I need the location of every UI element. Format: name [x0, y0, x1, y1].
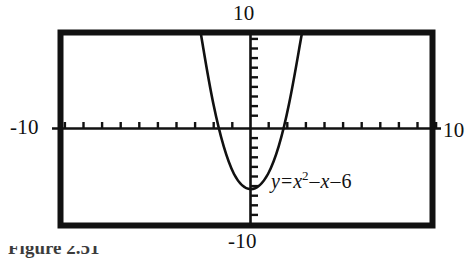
- equation-exponent: 2: [302, 168, 309, 183]
- coordinate-plot: [0, 0, 473, 259]
- equation-lhs: y: [271, 170, 280, 192]
- equation-minus-1: –: [309, 170, 321, 192]
- figure-caption-text: Figure 2.51: [8, 246, 99, 259]
- x-axis-min-label: -10: [10, 117, 39, 138]
- graph-figure: 10 -10 -10 10 y=x2–x–6 Figure 2.51: [0, 0, 473, 259]
- equation-minus-2: –: [329, 170, 341, 192]
- equation-variable: x: [293, 170, 302, 192]
- x-axis-max-label: 10: [443, 120, 464, 141]
- figure-caption-clipped: Figure 2.51: [8, 246, 208, 259]
- equation-constant: 6: [341, 170, 351, 192]
- y-axis-max-label: 10: [233, 3, 254, 24]
- y-axis-min-label: -10: [228, 231, 257, 252]
- y-axis-ticks: [251, 39, 258, 225]
- equation-equals: =: [280, 170, 293, 192]
- equation-annotation: y=x2–x–6: [271, 171, 351, 191]
